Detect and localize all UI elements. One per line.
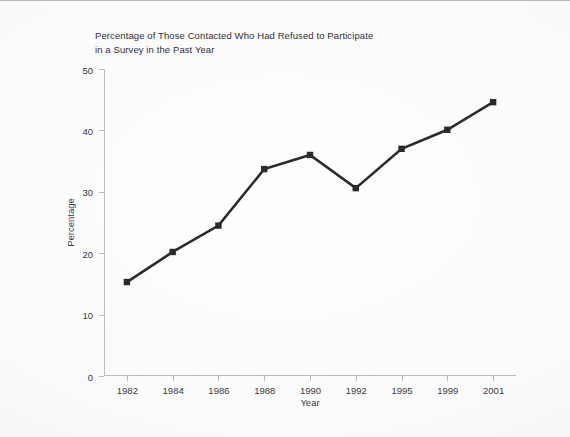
data-point-marker: 1995: 37 (398, 146, 404, 152)
x-axis-tick-label: 1984 (163, 385, 184, 396)
data-point-marker: 1990: 36 (307, 152, 313, 158)
x-axis-tick: 2001 (493, 376, 494, 381)
y-axis-tick-label: 20 (82, 248, 93, 259)
x-axis-tick: 1984 (173, 376, 174, 381)
x-axis-tick: 1999 (447, 376, 448, 381)
plot-area: 01020304050 1982198419861988199019921995… (104, 69, 516, 376)
y-axis-tick-label: 0 (88, 371, 93, 382)
data-point-marker: 1992: 30.6 (353, 185, 359, 191)
y-axis-label-text: Percentage (65, 198, 76, 247)
data-point-marker: 1999: 40.1 (444, 127, 450, 133)
y-axis-label: Percentage (46, 69, 95, 376)
y-axis-tick-label: 40 (82, 125, 93, 136)
data-point-marker: 1982: 15.3 (124, 279, 130, 285)
line-series: 1982: 15.31984: 20.21986: 24.51988: 33.7… (104, 69, 516, 376)
data-point-marker: 1986: 24.5 (215, 222, 221, 228)
y-axis-tick-label: 10 (82, 310, 93, 321)
y-axis-tick-label: 30 (82, 187, 93, 198)
y-axis-tick-label: 50 (82, 64, 93, 75)
data-point-marker: 1984: 20.2 (169, 249, 175, 255)
x-axis-tick: 1992 (356, 376, 357, 381)
series-line (127, 102, 493, 282)
x-axis-tick-label: 1999 (437, 385, 458, 396)
x-axis-tick: 1986 (218, 376, 219, 381)
chart-figure: Percentage of Those Contacted Who Had Re… (0, 0, 570, 437)
x-axis-tick: 1988 (264, 376, 265, 381)
x-axis-tick-label: 1995 (391, 385, 412, 396)
chart-title: Percentage of Those Contacted Who Had Re… (95, 29, 455, 57)
x-axis-tick-label: 1982 (117, 385, 138, 396)
x-axis-label: Year (104, 397, 516, 408)
x-axis-tick-label: 2001 (483, 385, 504, 396)
x-axis-tick: 1982 (127, 376, 128, 381)
data-point-marker: 1988: 33.7 (261, 166, 267, 172)
data-point-marker: 2001: 44.6 (490, 99, 496, 105)
x-axis-tick-label: 1992 (346, 385, 367, 396)
x-axis-tick-label: 1986 (208, 385, 229, 396)
x-axis-tick: 1990 (310, 376, 311, 381)
x-axis-tick-label: 1990 (300, 385, 321, 396)
y-axis-tick: 0 (99, 376, 104, 377)
x-axis-tick: 1995 (402, 376, 403, 381)
x-axis-tick-label: 1988 (254, 385, 275, 396)
